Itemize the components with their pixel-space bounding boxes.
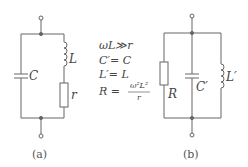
circuit-drawing	[0, 0, 248, 167]
inductor-l-prime	[221, 64, 224, 88]
resistor-r	[60, 83, 68, 107]
resistor-R	[160, 62, 168, 85]
terminal-bottom-b	[190, 133, 194, 137]
caption-a: (a)	[32, 149, 47, 160]
inductor-l	[64, 42, 67, 66]
label-inductor-l-prime: L′	[226, 71, 237, 83]
circuit-a	[14, 16, 68, 138]
equation-1: ωL≫r	[99, 40, 133, 51]
equation-4-lhs: R =	[99, 86, 120, 97]
label-resistor-r: r	[71, 89, 77, 101]
equation-2: C′= C	[99, 55, 131, 66]
equation-4-numerator: ω²L²	[128, 82, 150, 90]
equation-3: L′= L	[99, 69, 129, 80]
terminal-top-a	[39, 16, 43, 20]
label-capacitor-c: C	[29, 70, 38, 82]
label-resistor-R: R	[168, 88, 177, 100]
equation-4-denominator: r	[128, 94, 150, 102]
circuit-b	[160, 14, 224, 137]
label-capacitor-c-prime: C′	[196, 81, 208, 93]
diagram-root: C L r (a) R C′ L′ (b) ωL≫r C′= C L′= L R…	[0, 0, 248, 167]
label-inductor-l: L	[69, 53, 77, 65]
terminal-bottom-a	[39, 134, 43, 138]
terminal-top-b	[190, 14, 194, 18]
caption-b: (b)	[183, 149, 199, 160]
